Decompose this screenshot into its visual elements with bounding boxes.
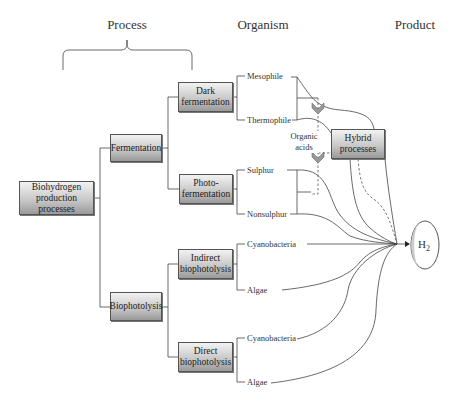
header-process: Process — [107, 17, 147, 33]
organism-algae-indirect: Algae — [246, 285, 268, 295]
box-biohydrogen-production: Biohydrogen production processes — [19, 181, 94, 215]
organism-thermophile: Thermophile — [246, 115, 292, 125]
box-fermentation: Fermentation — [110, 134, 162, 162]
box-photo-fermentation: Photo-fermentation — [179, 174, 233, 204]
box-direct-biophotolysis: Direct biophotolysis — [178, 342, 233, 372]
box-label: Biophotolysis — [110, 301, 163, 312]
organism-cyanobacteria-indirect: Cyanobacteria — [246, 239, 297, 249]
h2-subscript: 2 — [426, 244, 430, 253]
organism-nonsulphur: Nonsulphur — [246, 209, 288, 219]
box-label: Dark fermentation — [179, 86, 232, 108]
product-h2: H2 — [418, 238, 430, 253]
organism-sulphur: Sulphur — [246, 165, 275, 175]
box-dark-fermentation: Dark fermentation — [178, 82, 233, 112]
h2-label: H — [418, 238, 426, 250]
organic-acids-label: Organic acids — [289, 131, 319, 153]
box-hybrid-processes: Hybrid processes — [331, 129, 385, 159]
box-indirect-biophotolysis: Indirect biophotolysis — [178, 249, 233, 279]
box-biophotolysis: Biophotolysis — [110, 292, 162, 321]
organism-algae-direct: Algae — [246, 377, 268, 387]
organism-cyanobacteria-direct: Cyanobacteria — [246, 333, 297, 343]
box-label: Hybrid processes — [332, 133, 384, 155]
box-label: Fermentation — [111, 143, 162, 154]
box-label: Indirect biophotolysis — [179, 253, 232, 275]
header-organism: Organism — [237, 17, 288, 33]
box-label: Photo-fermentation — [180, 178, 232, 200]
box-label: Biohydrogen production processes — [20, 182, 93, 215]
header-product: Product — [395, 17, 435, 33]
box-label: Direct biophotolysis — [179, 346, 232, 368]
organism-mesophile: Mesophile — [246, 71, 284, 81]
